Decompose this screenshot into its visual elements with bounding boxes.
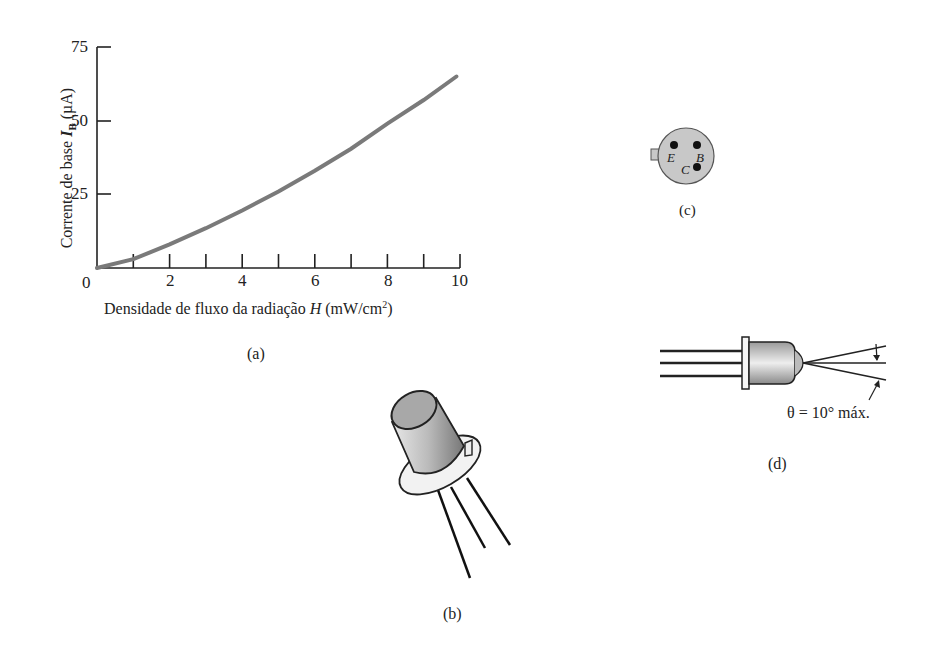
pin-e [670,141,678,149]
x-axis-label: Densidade de fluxo da radiação H (mW/cm2… [104,299,392,318]
x-tick-4: 4 [238,271,247,291]
y-tick-25: 25 [71,184,88,204]
pin-label-e: E [667,150,675,166]
transistor-3d-illustration [385,383,510,578]
chart-axes [97,47,460,268]
pin-label-c: C [681,162,690,178]
x-tick-8: 8 [384,271,393,291]
y-axis-label: Corrente de base IB (µA) [58,38,78,298]
pin-b [693,141,701,149]
y-tick-50: 50 [71,111,88,131]
x-tick-0: 0 [82,273,91,293]
side-view-diagram [660,337,886,400]
data-curve [97,77,456,269]
figure-canvas [0,0,937,654]
caption-a: (a) [247,345,265,363]
x-tick-10: 10 [451,271,468,291]
caption-b: (b) [443,605,462,623]
y-tick-75: 75 [71,37,88,57]
pin-label-b: B [696,150,704,166]
angle-label: θ = 10° máx. [787,404,870,422]
x-axis-ticks [133,254,460,268]
x-tick-6: 6 [311,271,320,291]
caption-d: (d) [768,455,787,473]
x-tick-2: 2 [166,271,175,291]
caption-c: (c) [679,202,696,219]
